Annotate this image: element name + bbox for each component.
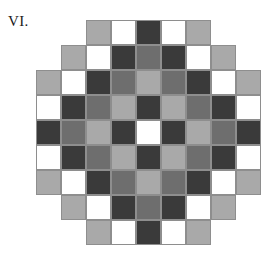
grid-cell <box>36 120 61 145</box>
grid-cell <box>136 95 161 120</box>
grid-cell <box>161 45 186 70</box>
grid-cell <box>236 170 261 195</box>
grid-cell <box>111 120 136 145</box>
grid-cell-empty <box>211 220 236 245</box>
grid-cell <box>236 70 261 95</box>
grid-cell <box>36 95 61 120</box>
grid-cell-empty <box>36 45 61 70</box>
grid-cell <box>161 120 186 145</box>
grid-cell <box>111 70 136 95</box>
grid-cell <box>36 170 61 195</box>
grid-cell <box>211 45 236 70</box>
grid-cell-empty <box>36 195 61 220</box>
grid-cell-empty <box>61 20 86 45</box>
grid-cell <box>136 45 161 70</box>
grid-cell <box>86 20 111 45</box>
grid-cell <box>61 95 86 120</box>
grid-cell <box>61 45 86 70</box>
grid-cell <box>236 120 261 145</box>
grid-cell <box>161 170 186 195</box>
grid-cell <box>161 195 186 220</box>
grid-cell <box>111 45 136 70</box>
grid-cell <box>86 170 111 195</box>
grid-cell <box>161 70 186 95</box>
grid-cell <box>161 145 186 170</box>
grid-cell <box>136 220 161 245</box>
grid-cell <box>211 120 236 145</box>
grid-cell <box>136 195 161 220</box>
grid-cell <box>86 120 111 145</box>
grid-cell <box>161 220 186 245</box>
grid-cell <box>186 95 211 120</box>
grid-cell <box>86 195 111 220</box>
grid-cell <box>61 145 86 170</box>
grid-cell-empty <box>236 220 261 245</box>
grid-cell <box>186 45 211 70</box>
grid-cell <box>61 120 86 145</box>
grid-cell <box>86 70 111 95</box>
grid-cell <box>186 120 211 145</box>
pattern-block <box>36 20 261 245</box>
grid-cell <box>61 70 86 95</box>
checkerboard-grid <box>36 20 261 245</box>
grid-cell <box>111 195 136 220</box>
grid-cell-empty <box>61 220 86 245</box>
grid-cell <box>161 95 186 120</box>
grid-cell <box>111 145 136 170</box>
figure-label: VI. <box>8 14 28 29</box>
grid-cell <box>236 145 261 170</box>
grid-cell <box>111 95 136 120</box>
grid-cell <box>86 145 111 170</box>
grid-cell <box>136 120 161 145</box>
grid-cell <box>161 20 186 45</box>
grid-cell <box>61 195 86 220</box>
grid-cell <box>211 195 236 220</box>
grid-cell <box>136 20 161 45</box>
grid-cell <box>136 170 161 195</box>
grid-cell <box>186 220 211 245</box>
grid-cell <box>111 170 136 195</box>
grid-cell <box>211 95 236 120</box>
grid-cell <box>36 70 61 95</box>
grid-cell <box>111 20 136 45</box>
grid-cell <box>136 70 161 95</box>
grid-cell-empty <box>236 195 261 220</box>
grid-cell <box>186 20 211 45</box>
grid-cell <box>211 70 236 95</box>
grid-cell-empty <box>36 20 61 45</box>
grid-cell <box>86 95 111 120</box>
grid-cell <box>236 95 261 120</box>
grid-cell <box>61 170 86 195</box>
grid-cell <box>86 220 111 245</box>
grid-cell <box>36 145 61 170</box>
grid-cell <box>211 170 236 195</box>
grid-cell <box>186 145 211 170</box>
grid-cell <box>86 45 111 70</box>
grid-cell <box>186 170 211 195</box>
grid-cell <box>186 195 211 220</box>
grid-cell <box>111 220 136 245</box>
grid-cell-empty <box>236 45 261 70</box>
grid-cell-empty <box>36 220 61 245</box>
grid-cell <box>211 145 236 170</box>
grid-cell-empty <box>236 20 261 45</box>
grid-cell-empty <box>211 20 236 45</box>
grid-cell <box>136 145 161 170</box>
grid-cell <box>186 70 211 95</box>
